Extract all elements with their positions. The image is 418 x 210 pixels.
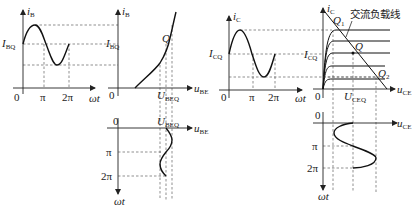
ibq-label: IBQ	[105, 37, 119, 51]
tick-2pi: 2π	[268, 91, 280, 103]
ube-axis-label: uBE	[194, 122, 208, 136]
panel-output-characteristic: iC 交流负载线 Q1 Q Q2 ICQ 0 UCEQ uCE	[303, 2, 411, 192]
q1-label: Q1	[333, 14, 345, 28]
time-axis-label: ωt	[295, 92, 307, 104]
ubeq-label: UBEQ	[157, 89, 179, 103]
ac-load-line-label: 交流负载线	[350, 8, 401, 20]
ib-axis-label: iB	[122, 5, 130, 19]
icq-label: ICQ	[208, 47, 222, 61]
q2-label: Q2	[378, 67, 390, 81]
panel-ic-vs-time: iC ICQ 0 π 2π ωt	[208, 10, 380, 104]
origin-label: 0	[109, 89, 115, 101]
tick-pi: π	[40, 91, 46, 103]
uce-axis-label: uCE	[397, 117, 411, 131]
uce-waveform	[334, 123, 376, 168]
tick-2pi: 2π	[307, 162, 319, 174]
tick-pi: π	[312, 140, 318, 152]
origin-label: 0	[14, 91, 20, 103]
tick-pi: π	[249, 91, 255, 103]
input-curve	[135, 12, 176, 88]
origin-label: 0	[221, 91, 227, 103]
ic-axis-label: iC	[233, 10, 241, 24]
tick-pi: π	[106, 146, 112, 158]
q-point-label: Q	[162, 32, 170, 44]
tick-2pi: 2π	[101, 170, 113, 182]
origin-label: 0	[315, 109, 321, 121]
ibq-label: IBQ	[1, 37, 15, 51]
bjt-amplifier-waveform-diagram: iB IBQ 0 π 2π ωt iB IBQ Q 0 UBEQ uBE 0 U…	[0, 0, 418, 210]
icq-label: ICQ	[303, 48, 317, 62]
uceq-label: UCEQ	[344, 90, 366, 104]
origin-label: 0	[315, 90, 321, 102]
ube-axis-label: uBE	[194, 82, 208, 96]
q-label: Q	[355, 40, 363, 52]
panel-ube-vs-time: 0 UBEQ uBE π 2π ωt	[101, 115, 208, 207]
panel-ib-vs-time: iB IBQ 0 π 2π ωt	[1, 5, 118, 104]
ubeq-label: UBEQ	[157, 115, 179, 129]
load-line-leader	[346, 21, 352, 37]
ib-axis-label: iB	[27, 5, 35, 19]
panel-uce-vs-time: 0 uCE π 2π ωt	[307, 109, 411, 202]
ib-waveform	[23, 25, 69, 65]
time-axis-label: ωt	[89, 92, 101, 104]
uce-axis-label: uCE	[397, 83, 411, 97]
time-axis-label: ωt	[318, 190, 330, 202]
tick-2pi: 2π	[62, 91, 74, 103]
time-axis-label: ωt	[114, 195, 126, 207]
origin-label: 0	[113, 115, 119, 127]
panel-input-characteristic: iB IBQ Q 0 UBEQ uBE	[105, 5, 208, 200]
ic-waveform	[229, 30, 275, 77]
